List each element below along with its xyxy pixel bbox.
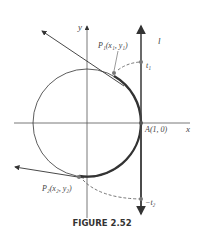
y-axis-label: y	[77, 22, 82, 32]
tangent-p2	[15, 167, 84, 178]
arc-t1	[114, 76, 141, 123]
point-p2	[77, 175, 81, 179]
tangent-p1	[42, 31, 124, 86]
dashed-p1-t1	[118, 62, 140, 70]
p1-label: P₁(x₁, y₁)	[97, 41, 128, 50]
t2-label: −t₂	[145, 198, 156, 207]
point-p1	[112, 71, 116, 75]
p2-label: P₂(x₂, y₂)	[41, 184, 72, 193]
point-t1	[139, 60, 143, 64]
arc-t2	[79, 123, 141, 177]
figure-caption: FIGURE 2.52	[72, 218, 131, 228]
line-l-label: l	[158, 36, 161, 46]
point-a	[139, 121, 143, 125]
point-t2	[139, 197, 143, 201]
x-axis-label: x	[185, 124, 190, 134]
a-label: A(1, 0)	[144, 125, 168, 134]
t1-label: t₁	[146, 61, 151, 70]
unit-circle-diagram: y x l P₁(x₁, y₁) t₁ A(1, 0) P₂(x₂, y₂) −…	[0, 0, 204, 233]
dashed-p2-t2	[83, 180, 140, 199]
